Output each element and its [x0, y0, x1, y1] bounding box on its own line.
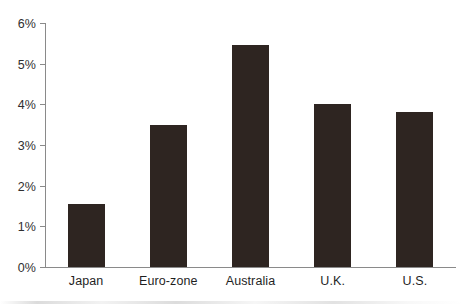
- bar: [150, 125, 187, 267]
- y-axis-tick-label: 6%: [18, 17, 36, 31]
- bar: [396, 112, 433, 267]
- bar: [68, 204, 105, 267]
- x-axis-label: U.S.: [374, 274, 456, 288]
- x-axis-label: U.K.: [292, 274, 374, 288]
- x-axis-baseline: [45, 267, 456, 268]
- y-axis-tick-label: 1%: [18, 220, 36, 234]
- y-axis-tick-label: 2%: [18, 180, 36, 194]
- x-axis-label: Australia: [209, 274, 291, 288]
- y-axis-tick-label: 3%: [18, 139, 36, 153]
- y-axis-tick-label: 0%: [18, 261, 36, 275]
- scan-artifact: [0, 301, 463, 304]
- y-axis-tick-label: 4%: [18, 98, 36, 112]
- y-axis-tick: 0%: [40, 267, 45, 268]
- y-axis-tick-label: 5%: [18, 58, 36, 72]
- bar: [232, 45, 269, 267]
- x-axis-label: Euro-zone: [127, 274, 209, 288]
- bar-series: [45, 23, 456, 267]
- bar-chart: 6%5%4%3%2%1%0% JapanEuro-zoneAustraliaU.…: [0, 0, 463, 308]
- x-axis-label: Japan: [45, 274, 127, 288]
- bar: [314, 104, 351, 267]
